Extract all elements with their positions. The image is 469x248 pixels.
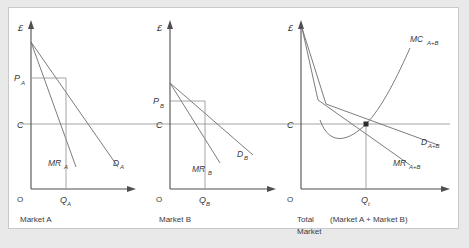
marginal-revenue-subscript-market-a: A [63, 164, 68, 170]
caption-total-market-line1: Total [297, 215, 314, 224]
y-axis-label-market-b: £ [156, 23, 163, 33]
origin-label-market-b: O [156, 195, 162, 204]
quantity-subscript-market-a: A [66, 201, 71, 207]
marginal-revenue-subscript-market-b: B [208, 170, 212, 176]
price-discrimination-diagram: £ P A C O Q A MR A D A Market A £ [0, 0, 469, 248]
caption-market-a: Market A [20, 215, 52, 224]
origin-label-market-a: O [17, 195, 23, 204]
demand-subscript-total-market: A+B [427, 143, 440, 149]
y-axis-arrow-market-a [28, 20, 34, 29]
price-subscript-market-a: A [20, 80, 25, 86]
quantity-label-market-b: Q [199, 195, 206, 205]
marginal-revenue-label-market-a: MR [48, 158, 61, 168]
demand-subscript-market-b: B [244, 155, 248, 161]
quantity-label-market-a: Q [60, 195, 67, 205]
marginal-revenue-curve-market-a [31, 42, 76, 167]
demand-label-total-market: D [421, 137, 427, 147]
price-subscript-market-b: B [160, 103, 164, 109]
caption-market-b: Market B [159, 215, 191, 224]
panel-total-market: £ C O Q t MC A+B D A+B MR A+B Total Mark… [287, 20, 450, 236]
y-axis-label-total-market: £ [287, 23, 294, 33]
marginal-cost-subscript-total-market: A+B [426, 40, 439, 46]
demand-curve-market-b [170, 83, 253, 155]
origin-label-total-market: O [287, 195, 293, 204]
marginal-revenue-label-total-market: MR [393, 158, 406, 168]
x-axis-arrow-total-market [441, 186, 450, 192]
equilibrium-point-total-market [364, 122, 369, 127]
demand-subscript-market-a: A [119, 164, 124, 170]
price-label-market-a: P [14, 73, 20, 83]
caption-total-market-note: (Market A + Market B) [330, 215, 408, 224]
y-axis-arrow-total-market [298, 20, 304, 29]
marginal-revenue-curve-total-market [302, 28, 410, 165]
marginal-revenue-curve-market-b [170, 83, 220, 163]
figure-root: £ P A C O Q A MR A D A Market A £ [0, 0, 469, 248]
demand-label-market-a: D [113, 158, 119, 168]
quantity-subscript-total-market: t [368, 201, 370, 207]
panel-market-a: £ P A C O Q A MR A D A Market A [14, 20, 136, 224]
quantity-label-total-market: Q [361, 195, 368, 205]
cost-label-market-b: C [156, 120, 163, 130]
price-label-market-b: P [153, 96, 159, 106]
demand-curve-market-a [31, 42, 118, 167]
demand-curve-total-market [302, 28, 438, 145]
panel-market-b: £ P B C O Q B MR B D B Market B [153, 20, 276, 224]
quantity-subscript-market-b: B [206, 201, 210, 207]
x-axis-arrow-market-a [127, 186, 136, 192]
marginal-cost-label-total-market: MC [410, 34, 424, 44]
caption-total-market-line2: Market [297, 227, 322, 236]
y-axis-label-market-a: £ [17, 23, 24, 33]
x-axis-arrow-market-b [267, 186, 276, 192]
marginal-revenue-label-market-b: MR [192, 164, 205, 174]
cost-label-total-market: C [287, 120, 294, 130]
demand-label-market-b: D [237, 149, 243, 159]
y-axis-arrow-market-b [167, 20, 173, 29]
marginal-revenue-subscript-total-market: A+B [408, 164, 421, 170]
cost-label-market-a: C [17, 120, 24, 130]
